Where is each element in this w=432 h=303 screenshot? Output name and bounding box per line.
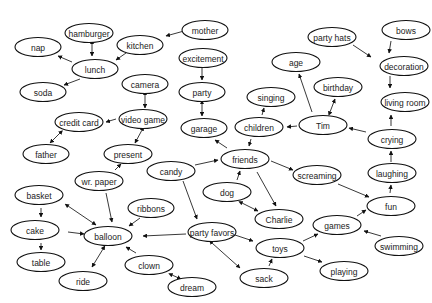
node-camera: camera	[122, 75, 168, 94]
edge-children-to-singing	[262, 108, 264, 115]
node-label: lunch	[85, 65, 106, 75]
node-table: table	[17, 253, 65, 272]
node-balloon: balloon	[84, 227, 132, 246]
node-label: playing	[331, 267, 358, 277]
edge-basket-to-balloon	[68, 206, 96, 225]
node-label: ride	[76, 277, 90, 287]
node-age: age	[272, 53, 320, 72]
node-wr-paper: wr. paper	[75, 172, 123, 191]
node-toys: toys	[256, 239, 304, 258]
node-tim: Tim	[299, 116, 347, 135]
node-label: party favors	[190, 228, 234, 238]
node-nap: nap	[15, 38, 61, 57]
node-label: screaming	[297, 171, 336, 181]
node-dream: dream	[168, 278, 216, 297]
node-label: ribbons	[137, 204, 165, 214]
edge-games-to-fun	[357, 210, 366, 216]
node-label: decoration	[384, 62, 424, 72]
node-label: party hats	[313, 33, 350, 43]
node-children: children	[235, 118, 283, 137]
edge-candy-to-party_favors	[183, 181, 197, 219]
edge-cake-to-balloon	[68, 232, 84, 234]
edge-wr_paper-to-balloon	[106, 193, 112, 222]
node-label: garage	[191, 124, 218, 134]
edge-friends-to-charlie	[257, 172, 276, 206]
node-party-favors: party favors	[188, 223, 236, 242]
node-party-hats: party hats	[308, 28, 356, 47]
node-label: fun	[385, 202, 397, 212]
edge-party_hats-to-decoration	[353, 45, 371, 57]
edge-ribbons-to-balloon	[129, 218, 140, 226]
node-laughing: laughing	[368, 164, 416, 183]
edge-dog-to-friends	[237, 171, 240, 180]
edge-dog-to-charlie	[242, 203, 258, 211]
node-label: Tim	[316, 121, 330, 131]
edge-clown-to-balloon	[126, 247, 136, 253]
node-label: nap	[31, 43, 45, 53]
node-games: games	[313, 216, 361, 235]
node-kitchen: kitchen	[117, 36, 163, 55]
node-birthday: birthday	[314, 78, 362, 97]
node-lunch: lunch	[72, 60, 118, 79]
node-bows: bows	[382, 21, 430, 40]
node-label: video game	[121, 115, 165, 125]
node-video-game: video game	[119, 110, 167, 129]
node-label: toys	[272, 244, 288, 254]
node-clown: clown	[125, 256, 173, 275]
node-label: age	[289, 58, 303, 68]
node-label: party	[193, 88, 213, 98]
edge-party_favors-to-sack	[212, 243, 240, 268]
node-label: candy	[160, 167, 183, 177]
node-candy: candy	[147, 162, 195, 181]
node-soda: soda	[20, 83, 66, 102]
node-label: swimming	[380, 242, 418, 252]
node-playing: playing	[320, 262, 368, 281]
node-label: birthday	[323, 83, 354, 93]
node-present: present	[104, 145, 152, 164]
node-label: balloon	[94, 232, 122, 242]
edge-swimming-to-games	[364, 231, 381, 236]
nodes-layer: hamburgernapkitchenmotherlunchsodaexcite…	[11, 21, 430, 297]
node-label: living room	[384, 98, 425, 108]
concept-map-diagram: hamburgernapkitchenmotherlunchsodaexcite…	[0, 0, 432, 303]
node-label: hamburger	[68, 29, 109, 39]
node-fun: fun	[367, 197, 415, 216]
node-living-room: living room	[381, 93, 429, 112]
node-crying: crying	[368, 130, 416, 149]
edge-balloon-to-ride	[92, 249, 103, 267]
node-screaming: screaming	[293, 166, 341, 185]
edge-friends-to-garage	[215, 140, 227, 148]
node-label: clown	[138, 261, 160, 271]
node-label: sack	[255, 274, 273, 284]
edge-toys-to-playing	[304, 256, 322, 262]
node-label: basket	[26, 191, 52, 201]
node-garage: garage	[181, 119, 227, 138]
node-label: mother	[192, 26, 219, 36]
node-label: soda	[34, 88, 53, 98]
edge-lunch-to-soda	[64, 79, 80, 85]
node-label: present	[114, 150, 143, 160]
node-singing: singing	[247, 88, 295, 107]
node-decoration: decoration	[380, 57, 428, 76]
node-label: kitchen	[127, 41, 154, 51]
edge-tim-to-age	[299, 74, 312, 112]
edge-mother-to-kitchen	[166, 31, 184, 36]
node-label: Charlie	[266, 215, 293, 225]
edge-children-to-friends	[249, 139, 251, 146]
node-ribbons: ribbons	[128, 199, 174, 218]
node-label: crying	[381, 135, 404, 145]
node-label: cake	[26, 226, 44, 236]
edge-candy-to-friends	[195, 160, 218, 165]
edge-lunch-to-nap	[58, 56, 72, 62]
node-hamburger: hamburger	[65, 24, 113, 43]
edge-tim-to-children	[287, 126, 297, 127]
edge-friends-to-screaming	[271, 161, 293, 170]
edge-kitchen-to-lunch	[116, 53, 126, 60]
edge-crying-to-tim	[349, 128, 366, 132]
node-mother: mother	[182, 21, 228, 40]
node-credit-card: credit card	[55, 113, 103, 132]
node-ride: ride	[59, 272, 107, 291]
node-label: friends	[232, 155, 258, 165]
edge-wr_paper-to-present	[115, 164, 121, 170]
node-label: dog	[220, 188, 234, 198]
